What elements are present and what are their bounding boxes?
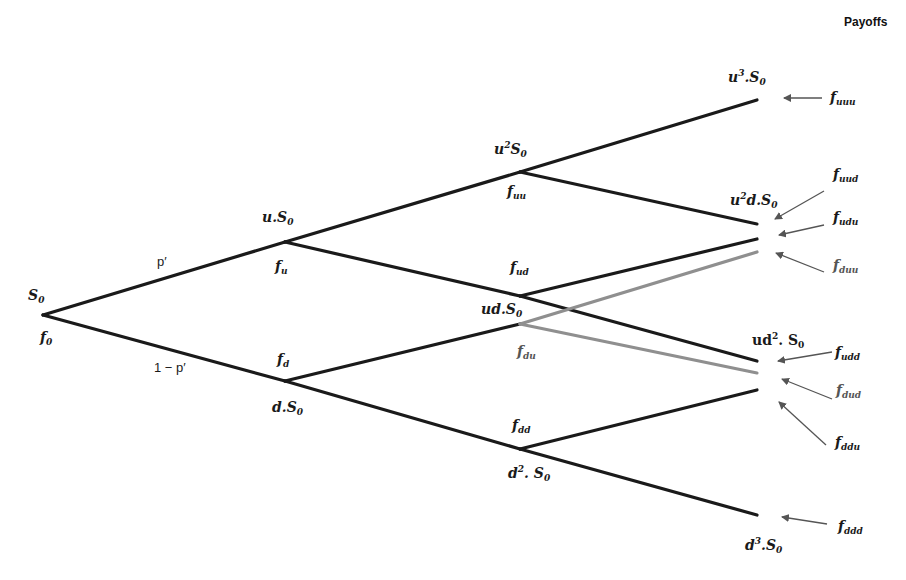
- payoff-fddu: fddu: [835, 435, 860, 452]
- branch-dd-ddd: [520, 449, 757, 515]
- branch-du-dud: [520, 324, 757, 373]
- payoff-fudd: fudd: [835, 345, 860, 362]
- payoffs-title: Payoffs: [844, 15, 887, 29]
- payoff-fddd: fddd: [838, 519, 863, 536]
- branch-uu-uuu: [520, 100, 757, 172]
- node-u-payoff: fu: [275, 259, 288, 276]
- branch-d-dd: [285, 381, 520, 449]
- binomial-tree-diagram: [0, 0, 906, 580]
- branch-d-du: [285, 324, 520, 381]
- node-root-price: S0: [28, 288, 44, 305]
- arrow-fuud: [775, 191, 824, 219]
- node-ud-payoff: fud: [510, 260, 529, 277]
- payoff-fuuu: fuuu: [830, 90, 856, 107]
- terminal-udd-price: ud2. S0: [752, 332, 804, 350]
- arrow-fddu: [779, 402, 826, 445]
- node-d-payoff: fd: [277, 352, 289, 369]
- node-uu-price: u2S0: [494, 141, 527, 159]
- arrow-fddd: [782, 517, 827, 524]
- terminal-uuu-price: u3.S0: [728, 69, 766, 87]
- terminal-ddd-price: d3.S0: [745, 537, 782, 555]
- branch-ud-udd: [520, 296, 757, 361]
- node-d-price: d.S0: [272, 400, 303, 417]
- node-root-payoff: f0: [40, 330, 52, 347]
- node-ud-price: ud.S0: [481, 302, 522, 319]
- node-dd-price: d2. S0: [508, 465, 550, 483]
- branch-root-u: [43, 242, 285, 315]
- arrow-fduu: [776, 253, 824, 272]
- branch-uu-uud: [520, 172, 757, 224]
- arrow-fdud: [782, 379, 832, 399]
- node-dd-payoff: fdd: [512, 418, 531, 435]
- arrow-fudd: [778, 352, 832, 361]
- node-uu-payoff: fuu: [507, 184, 526, 201]
- branch-u-uu: [285, 172, 520, 242]
- node-u-price: u.S0: [262, 210, 293, 227]
- payoff-fduu: fduu: [833, 258, 858, 275]
- probability-down: 1 − p′: [154, 360, 186, 375]
- arrow-fudu: [779, 225, 824, 235]
- payoff-fudu: fudu: [833, 210, 858, 227]
- probability-up: p′: [157, 254, 167, 269]
- payoff-fdud: fdud: [836, 383, 861, 400]
- branch-u-ud: [285, 242, 520, 296]
- branch-dd-ddu: [520, 390, 757, 449]
- payoff-fuud: fuud: [833, 167, 858, 184]
- node-du-payoff: fdu: [517, 344, 536, 361]
- terminal-uud-price: u2d.S0: [730, 192, 778, 210]
